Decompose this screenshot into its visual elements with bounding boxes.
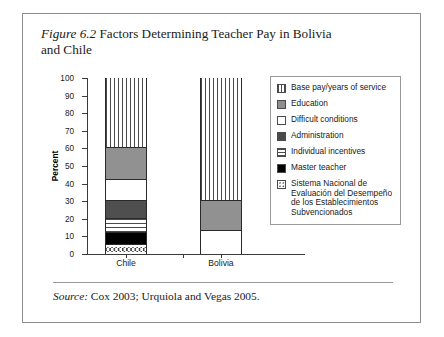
- legend-label-master-teacher: Master teacher: [291, 163, 346, 173]
- x-axis-line: [87, 254, 305, 255]
- legend-item-sned[interactable]: Sistema Nacional de Evaluación del Desem…: [277, 179, 395, 217]
- bar-chile[interactable]: [105, 78, 147, 254]
- source-text: Cox 2003; Urquiola and Vegas 2005.: [88, 290, 260, 302]
- legend-label-sned: Sistema Nacional de Evaluación del Desem…: [291, 179, 395, 217]
- segment-chile-administration[interactable]: [106, 201, 146, 219]
- source-note: Source: Cox 2003; Urquiola and Vegas 200…: [53, 290, 260, 302]
- y-tick-0: 0: [82, 254, 87, 255]
- segment-bolivia-education[interactable]: [201, 201, 241, 231]
- dark-gray-fill-swatch-icon: [277, 132, 286, 141]
- segment-chile-base-pay[interactable]: [106, 78, 146, 148]
- y-tick-80: 80: [82, 113, 87, 114]
- segment-chile-master-teacher[interactable]: [106, 233, 146, 245]
- y-axis-title: Percent: [50, 151, 60, 182]
- legend-label-difficult-conditions: Difficult conditions: [291, 115, 358, 125]
- segment-bolivia-difficult-conditions[interactable]: [201, 231, 241, 254]
- chart-plot-area: Percent 100 90 80 70 60 50 40 30 20 10 0: [23, 14, 422, 324]
- legend-item-individual-incentives[interactable]: Individual incentives: [277, 147, 395, 157]
- bar-bolivia[interactable]: [200, 78, 242, 254]
- x-label-chile: Chile: [116, 258, 136, 268]
- y-tick-90: 90: [82, 96, 87, 97]
- chart-legend: Base pay/years of service Education Diff…: [270, 76, 401, 225]
- legend-label-education: Education: [291, 99, 328, 109]
- source-divider: [53, 282, 393, 283]
- vertical-stripes-swatch-icon: [277, 84, 286, 93]
- legend-label-individual-incentives: Individual incentives: [291, 147, 365, 157]
- x-tick-mid: [183, 254, 184, 258]
- source-label: Source:: [53, 290, 88, 302]
- y-tick-70: 70: [82, 131, 87, 132]
- y-tick-30: 30: [82, 201, 87, 202]
- legend-item-education[interactable]: Education: [277, 99, 395, 109]
- gray-fill-swatch-icon: [277, 100, 286, 109]
- legend-label-administration: Administration: [291, 131, 344, 141]
- legend-item-administration[interactable]: Administration: [277, 131, 395, 141]
- figure-frame: Figure 6.2 Factors Determining Teacher P…: [22, 13, 421, 323]
- segment-chile-sned[interactable]: [106, 245, 146, 254]
- y-tick-10: 10: [82, 236, 87, 237]
- black-fill-swatch-icon: [277, 164, 286, 173]
- dotted-fill-swatch-icon: [277, 180, 286, 189]
- legend-item-difficult-conditions[interactable]: Difficult conditions: [277, 115, 395, 125]
- x-label-bolivia: Bolivia: [208, 258, 233, 268]
- legend-label-base-pay: Base pay/years of service: [291, 83, 386, 93]
- y-tick-100: 100: [82, 78, 87, 79]
- segment-bolivia-base-pay[interactable]: [201, 78, 241, 201]
- y-tick-20: 20: [82, 219, 87, 220]
- y-tick-40: 40: [82, 184, 87, 185]
- segment-chile-education[interactable]: [106, 148, 146, 180]
- legend-item-master-teacher[interactable]: Master teacher: [277, 163, 395, 173]
- horizontal-lines-swatch-icon: [277, 148, 286, 157]
- y-tick-60: 60: [82, 148, 87, 149]
- y-tick-50: 50: [82, 166, 87, 167]
- white-fill-swatch-icon: [277, 116, 286, 125]
- legend-item-base-pay[interactable]: Base pay/years of service: [277, 83, 395, 93]
- segment-chile-individual-incentives[interactable]: [106, 219, 146, 233]
- bars-container: 100 90 80 70 60 50 40 30 20 10 0: [87, 78, 262, 254]
- segment-chile-difficult-conditions[interactable]: [106, 180, 146, 201]
